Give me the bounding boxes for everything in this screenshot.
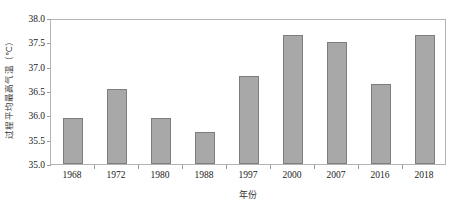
x-axis-tick-label-2016: 2016 bbox=[371, 170, 390, 180]
y-axis-tick-label: 35.5 bbox=[28, 136, 45, 146]
x-axis-tick-mark bbox=[226, 165, 227, 169]
bars-layer bbox=[51, 20, 445, 164]
x-axis-title: 年份 bbox=[50, 188, 446, 201]
bar-1972 bbox=[107, 89, 127, 164]
x-axis-tick-label-1972: 1972 bbox=[107, 170, 126, 180]
bar-2016 bbox=[371, 84, 391, 164]
x-axis-tick-mark bbox=[270, 165, 271, 169]
bar-1997 bbox=[239, 76, 259, 164]
y-axis-title: 过程平均最高气温（℃） bbox=[0, 0, 16, 176]
bar-1988 bbox=[195, 132, 215, 164]
x-axis-tick-label-2000: 2000 bbox=[283, 170, 302, 180]
x-axis-tick-mark bbox=[314, 165, 315, 169]
x-axis-tick-mark bbox=[358, 165, 359, 169]
y-axis-tick-labels: 35.035.536.036.537.037.538.0 bbox=[16, 19, 48, 165]
y-axis-tick-label: 36.0 bbox=[28, 111, 45, 121]
x-axis-tick-label-2007: 2007 bbox=[327, 170, 346, 180]
bar-1968 bbox=[63, 118, 83, 164]
bar-2018 bbox=[415, 35, 435, 164]
y-axis-title-text: 过程平均最高气温（℃） bbox=[2, 37, 14, 139]
x-axis-tick-mark bbox=[94, 165, 95, 169]
x-axis-tick-labels: 196819721980198819972000200720162018 bbox=[50, 170, 446, 186]
bar-2007 bbox=[327, 42, 347, 164]
x-axis-tick-label-1997: 1997 bbox=[239, 170, 258, 180]
y-axis-tick-label: 37.0 bbox=[28, 63, 45, 73]
x-axis-tick-mark bbox=[182, 165, 183, 169]
x-axis-tick-label-2018: 2018 bbox=[415, 170, 434, 180]
x-axis-tick-mark bbox=[138, 165, 139, 169]
bar-2000 bbox=[283, 35, 303, 164]
bar-1980 bbox=[151, 118, 171, 164]
y-axis-tick-label: 38.0 bbox=[28, 14, 45, 24]
x-axis-tick-mark bbox=[402, 165, 403, 169]
x-axis-tick-label-1980: 1980 bbox=[151, 170, 170, 180]
y-axis-tick-label: 37.5 bbox=[28, 38, 45, 48]
y-axis-tick-label: 35.0 bbox=[28, 160, 45, 170]
y-axis-tick-label: 36.5 bbox=[28, 87, 45, 97]
bar-chart-figure: 过程平均最高气温（℃） 35.035.536.036.537.037.538.0… bbox=[0, 0, 454, 208]
x-axis-tick-label-1968: 1968 bbox=[63, 170, 82, 180]
x-axis-tick-label-1988: 1988 bbox=[195, 170, 214, 180]
plot-area bbox=[50, 19, 446, 165]
